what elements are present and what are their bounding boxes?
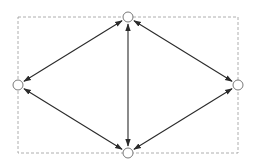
- node-top: [123, 12, 133, 22]
- edge-top-right: [134, 21, 232, 82]
- diagram-canvas: [0, 0, 262, 164]
- node-left: [13, 80, 23, 90]
- edge-top-left: [24, 21, 122, 82]
- edges-group: [24, 21, 232, 150]
- node-bottom: [123, 148, 133, 158]
- edge-right-bottom: [134, 89, 232, 150]
- node-right: [233, 80, 243, 90]
- edge-left-bottom: [24, 89, 122, 150]
